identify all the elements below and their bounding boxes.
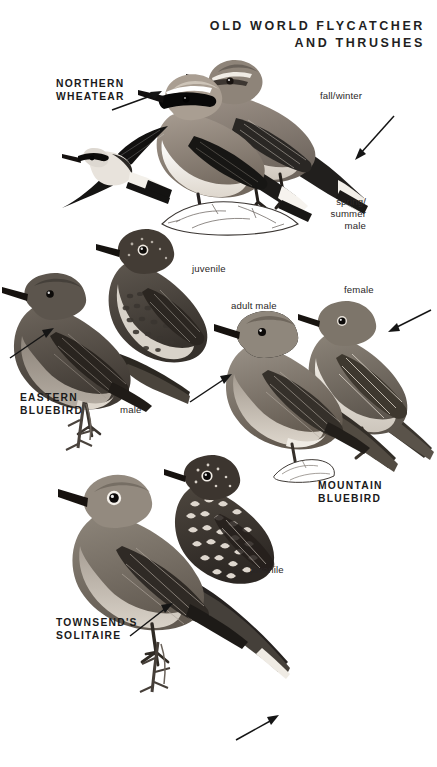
pointer-mountain-female — [385, 306, 433, 336]
label-juvenile-eastern: juvenile — [192, 263, 226, 275]
label-male-eastern: male — [120, 404, 141, 416]
label-juvenile-solitaire: juvenile — [250, 564, 284, 576]
label-adult-male: adult male — [231, 300, 277, 312]
label-spring-summer-male: spring/ summer male — [296, 196, 366, 233]
perch-twig-solitaire — [132, 640, 192, 696]
pointer-solitaire-tail — [234, 712, 284, 744]
label-fall-winter: fall/winter — [320, 90, 362, 102]
pointer-solitaire-wing — [128, 600, 176, 640]
species-name-eastern-bluebird: EASTERN BLUEBIRD — [20, 392, 83, 417]
label-female: female — [344, 284, 374, 296]
field-guide-plate: OLD WORLD FLYCATCHER AND THRUSHES — [0, 0, 437, 767]
pointer-eastern-breast — [8, 326, 56, 362]
species-name-townsends-solitaire: TOWNSEND'S SOLITAIRE — [56, 617, 138, 642]
pointer-mountain-male — [188, 372, 234, 406]
pointer-fall-winter-tail — [352, 112, 398, 162]
species-name-mountain-bluebird: MOUNTAIN BLUEBIRD — [318, 480, 383, 505]
pointer-wheatear-face — [110, 88, 166, 114]
page-title: OLD WORLD FLYCATCHER AND THRUSHES — [210, 18, 425, 52]
